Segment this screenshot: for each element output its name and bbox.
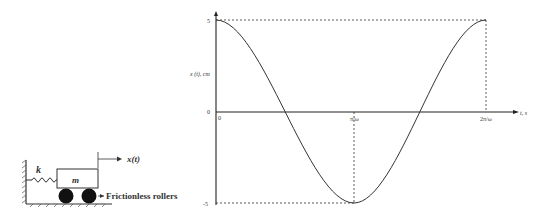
mass-label: m — [72, 175, 79, 185]
x-axis-arrow-icon — [513, 110, 519, 114]
figure: k m x(t) Frictionless rollers 5 0 -5 — [0, 0, 537, 216]
y-tick-zero: 0 — [207, 109, 210, 115]
spring-icon — [26, 178, 57, 182]
displacement-chart: 5 0 -5 0 π/ω 2π/ω t, s x (t), cm — [189, 11, 528, 207]
spring-mass-diagram: k m x(t) Frictionless rollers — [22, 152, 178, 207]
y-axis-arrow-icon — [214, 11, 218, 16]
y-tick-min: -5 — [203, 201, 208, 207]
y-axis-label: x (t), cm — [189, 71, 210, 78]
y-tick-max: 5 — [207, 18, 210, 24]
pointer-icon — [100, 194, 104, 198]
spring-label: k — [36, 164, 41, 175]
roller-right — [82, 189, 97, 204]
roller-left — [59, 189, 74, 204]
x-tick-period: 2π/ω — [480, 116, 492, 122]
displacement-label: x(t) — [126, 154, 140, 164]
arrow-right-icon — [117, 157, 122, 162]
x-tick-half-period: π/ω — [350, 116, 359, 122]
x-tick-origin: 0 — [218, 115, 221, 121]
x-axis-label: t, s — [520, 110, 528, 116]
rollers-label: Frictionless rollers — [106, 191, 178, 201]
